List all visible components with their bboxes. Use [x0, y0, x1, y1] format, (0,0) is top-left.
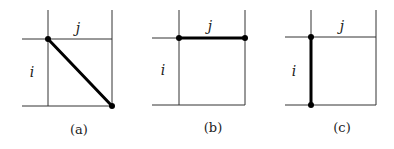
panel-caption: (a): [70, 122, 88, 137]
start-node: [45, 36, 51, 42]
grid-lines: [285, 10, 376, 105]
end-node: [242, 35, 248, 41]
panel-c: j i (c): [285, 10, 376, 135]
grid-lines: [152, 10, 245, 105]
panel-caption: (c): [333, 120, 350, 135]
column-label-j: j: [337, 18, 345, 34]
column-label-j: j: [205, 18, 213, 34]
column-label-j: j: [73, 20, 81, 36]
row-label-i: i: [292, 63, 296, 79]
end-node: [308, 102, 314, 108]
row-label-i: i: [30, 64, 34, 80]
highlighted-edge-diagonal: [48, 39, 112, 106]
start-node: [308, 34, 314, 40]
panel-a: j i (a): [22, 10, 115, 137]
row-label-i: i: [161, 62, 165, 78]
panel-caption: (b): [204, 120, 222, 135]
alignment-grid-figure: j i (a) j i (b) j i (c): [0, 0, 394, 149]
panel-b: j i (b): [152, 10, 248, 135]
start-node: [176, 35, 182, 41]
end-node: [109, 103, 115, 109]
